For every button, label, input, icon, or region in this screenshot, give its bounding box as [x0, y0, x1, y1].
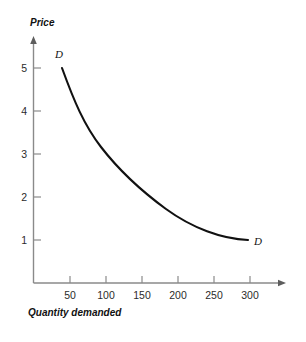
x-tick-label-200: 200: [169, 289, 187, 301]
curve-label-top: D: [54, 48, 63, 60]
x-axis-title: Quantity demanded: [28, 307, 122, 318]
curve-label-bottom: D: [253, 235, 262, 247]
demand-curve-path: [62, 68, 248, 240]
y-tick-label-2: 2: [21, 191, 27, 203]
y-tick-label-5: 5: [21, 62, 27, 74]
x-axis-arrow-icon: [278, 280, 286, 287]
x-tick-label-250: 250: [205, 289, 223, 301]
y-tick-label-1: 1: [21, 234, 27, 246]
x-tick-label-100: 100: [97, 289, 115, 301]
demand-curve-chart: 5 4 3 2 1 50 100 150 200 250 300 D D Pri…: [0, 0, 306, 342]
x-tick-label-50: 50: [64, 289, 76, 301]
x-tick-label-150: 150: [133, 289, 151, 301]
y-tick-label-3: 3: [21, 148, 27, 160]
chart-canvas: 5 4 3 2 1 50 100 150 200 250 300 D D Pri…: [0, 0, 306, 342]
y-axis-arrow-icon: [30, 36, 37, 44]
y-axis-title: Price: [30, 17, 55, 28]
y-tick-label-4: 4: [21, 105, 27, 117]
x-tick-label-300: 300: [241, 289, 259, 301]
